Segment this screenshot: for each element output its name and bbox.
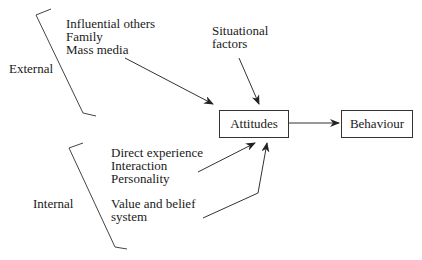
attitudes-node: Attitudes: [219, 110, 289, 138]
arrow-situational-to-attitudes: [239, 58, 259, 104]
attitude-formation-diagram: External Influential others Family Mass …: [0, 0, 422, 260]
external-item-mass-media: Mass media: [66, 43, 128, 56]
arrow-internal-b-to-attitudes: [203, 143, 267, 218]
internal-item-personality: Personality: [111, 172, 170, 185]
internal-item-system: system: [111, 210, 147, 223]
situational-factors-line-2: factors: [212, 37, 247, 50]
behaviour-node: Behaviour: [341, 110, 413, 138]
internal-label: Internal: [33, 197, 73, 210]
arrow-external-to-attitudes: [125, 58, 213, 104]
arrow-internal-a-to-attitudes: [198, 143, 255, 172]
external-label: External: [9, 62, 53, 75]
